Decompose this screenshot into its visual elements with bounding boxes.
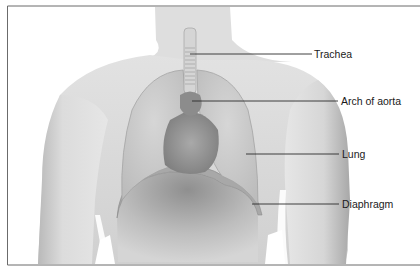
- label-lung: Lung: [342, 148, 365, 160]
- label-trachea: Trachea: [314, 48, 352, 60]
- label-diaphragm: Diaphragm: [342, 198, 393, 210]
- right-arm: [285, 80, 350, 264]
- label-arch-of-aorta: Arch of aorta: [341, 95, 401, 107]
- thorax-illustration: [0, 0, 420, 275]
- anatomy-figure: Trachea Arch of aorta Lung Diaphragm: [0, 0, 420, 275]
- heart: [163, 112, 218, 174]
